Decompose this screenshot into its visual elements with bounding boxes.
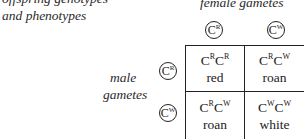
gamete-allele: W: [169, 107, 176, 114]
female-gametes-label: female gametes: [200, 0, 284, 11]
gamete-allele: R: [216, 24, 221, 31]
cell-rw-bottom: CRCW roan: [186, 92, 245, 139]
gamete-base: C: [269, 24, 277, 36]
genotype: CRCW: [200, 99, 231, 116]
male-gametes-label-line-1: male: [110, 70, 136, 86]
female-gamete-r: CR: [205, 21, 223, 39]
male-gamete-r: CR: [159, 62, 177, 80]
gamete-allele: W: [277, 24, 284, 31]
male-gametes-label-line-2: gametes: [103, 87, 147, 103]
genotype: CRCR: [201, 52, 230, 69]
punnett-square: CRCR red CRCW roan CRCW roan CWCW white: [185, 45, 304, 139]
genotype: CWCW: [258, 99, 291, 116]
title-line-2: and phenotypes: [2, 8, 86, 24]
title-line-1: offspring genotypes: [2, 0, 108, 7]
cell-ww: CWCW white: [245, 92, 304, 139]
phenotype: white: [260, 116, 290, 133]
cell-rw-top: CRCW roan: [245, 46, 304, 92]
gamete-base: C: [208, 24, 216, 36]
cell-rr: CRCR red: [186, 46, 245, 92]
phenotype: roan: [203, 116, 227, 133]
gamete-base: C: [161, 107, 169, 119]
phenotype: roan: [263, 69, 287, 86]
male-gamete-w: CW: [159, 104, 177, 122]
gamete-base: C: [162, 65, 170, 77]
phenotype: red: [206, 69, 223, 86]
genotype: CRCW: [259, 52, 290, 69]
female-gamete-w: CW: [267, 21, 285, 39]
gamete-allele: R: [170, 65, 175, 72]
